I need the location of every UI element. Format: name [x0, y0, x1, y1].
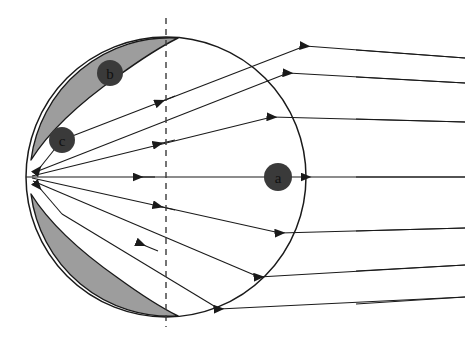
- label-disc-c: [49, 127, 75, 153]
- inner-arrow-upper-1: [160, 96, 175, 102]
- refraction-caustic-figure: a b c: [0, 0, 465, 337]
- label-disc-b: [97, 60, 123, 86]
- incident-ray-7: [219, 297, 465, 309]
- refracted-ray-5: [32, 178, 280, 233]
- lower-caustic-lobe: [31, 194, 178, 316]
- incident-ray-3-tail: [356, 119, 465, 122]
- incident-ray-6-tail: [356, 265, 465, 271]
- incident-ray-7-tail: [356, 297, 465, 304]
- label-marker-b: b: [97, 60, 123, 86]
- label-disc-a: [264, 163, 292, 191]
- label-marker-c: c: [49, 127, 75, 153]
- diagram-canvas: a b c: [0, 0, 465, 337]
- label-marker-a: a: [264, 163, 292, 191]
- incident-ray-2-tail: [356, 77, 465, 83]
- incident-ray-5-tail: [356, 228, 465, 231]
- inner-arrow-lower-2: [141, 244, 158, 251]
- incident-ray-1-tail: [356, 50, 465, 58]
